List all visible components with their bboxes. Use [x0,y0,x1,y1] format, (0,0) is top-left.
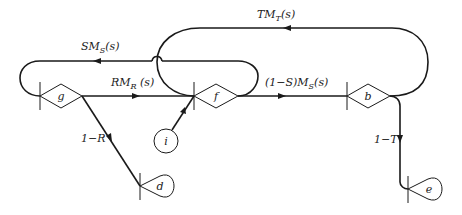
label-sms: SMS(s) [81,40,120,55]
arrow-i-icon [180,107,186,114]
node-e-label: e [426,183,433,196]
node-f: f [194,82,238,110]
node-d-label: d [156,180,163,193]
node-g-label: g [57,90,64,103]
label-tmt: TMT(s) [257,8,295,23]
arrow-sms-icon [93,58,101,64]
node-b-label: b [364,90,371,103]
flow-diagram: g f b i d e TMT(s) SMS(s) RMR (s) (1−S)M… [0,0,462,215]
label-1ms: (1−S)MS(s) [265,76,328,91]
arrow-rmr-icon [132,93,140,99]
node-e: e [408,176,442,203]
node-g: g [40,82,82,110]
arrow-1ms-icon [278,93,286,99]
node-i-label: i [164,135,168,148]
arrow-tmt-icon [283,25,291,31]
label-1r: 1−R [81,132,106,145]
label-1t: 1−T [374,133,399,146]
node-b: b [347,82,390,110]
label-rmr: RMR (s) [110,76,154,91]
arrow-1t-icon [397,135,403,143]
node-d: d [140,173,174,200]
node-i: i [154,129,178,153]
